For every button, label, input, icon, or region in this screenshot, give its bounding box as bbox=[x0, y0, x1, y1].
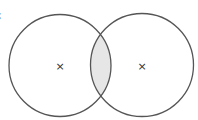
right-center-marker: × bbox=[137, 60, 146, 73]
left-center-marker: × bbox=[55, 60, 64, 73]
venn-diagram: × × bbox=[0, 0, 198, 120]
